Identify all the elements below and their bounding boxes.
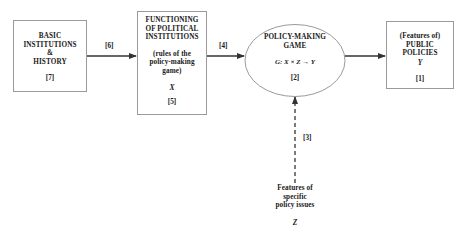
public-policies-ref: [1]	[416, 75, 424, 83]
public-policies-line-1: (Features of)	[400, 32, 440, 41]
basic-institutions-line-1: BASIC	[39, 32, 61, 41]
policy-game-ref: [2]	[291, 74, 299, 82]
public-policies-line-3: POLICIES	[402, 49, 437, 58]
policy-game-formula: G: X × Z → Y	[275, 58, 315, 66]
basic-institutions-line-3: &	[47, 49, 53, 58]
policy-issues-node: Features of specific policy issues Z	[255, 184, 335, 227]
edge-3-label: [3]	[303, 134, 311, 142]
edge-4-label: [4]	[219, 42, 227, 50]
functioning-ref: [5]	[168, 98, 176, 106]
public-policies-box: (Features of) PUBLIC POLICIES Y [1]	[386, 21, 454, 89]
basic-institutions-ref: [7]	[46, 74, 54, 82]
functioning-title-3: INSTITUTIONS	[145, 33, 198, 42]
functioning-title-1: FUNCTIONING	[145, 16, 198, 25]
basic-institutions-line-2: INSTITUTIONS	[23, 41, 76, 50]
functioning-box: FUNCTIONING OF POLITICAL INSTITUTIONS (r…	[137, 11, 207, 115]
public-policies-line-2: PUBLIC	[406, 41, 434, 50]
policy-issues-line-3: policy issues	[275, 201, 314, 210]
policy-issues-line-2: specific	[283, 193, 307, 202]
policy-game-node: POLICY-MAKING GAME G: X × Z → Y [2]	[245, 25, 345, 96]
functioning-var: X	[169, 83, 174, 92]
functioning-sub-2: policy-making	[149, 58, 194, 67]
policy-game-title-1: POLICY-MAKING	[264, 33, 326, 42]
policy-issues-line-1: Features of	[277, 184, 313, 193]
functioning-sub-1: (rules of the	[153, 50, 191, 59]
functioning-title-2: OF POLITICAL	[145, 25, 198, 34]
policy-issues-var: Z	[293, 218, 298, 227]
edge-6-label: [6]	[105, 42, 113, 50]
policy-game-title-2: GAME	[284, 42, 307, 51]
functioning-sub-3: game)	[162, 67, 181, 76]
basic-institutions-box: BASIC INSTITUTIONS & HISTORY [7]	[13, 20, 87, 92]
public-policies-var: Y	[418, 58, 423, 67]
basic-institutions-line-4: HISTORY	[33, 58, 66, 67]
